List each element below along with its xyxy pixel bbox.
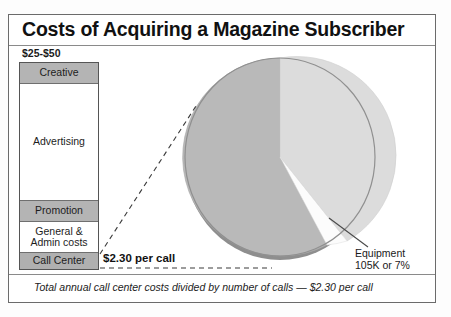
title-divider [9,45,435,46]
equipment-label: Equipment 105K or 7% [355,247,410,271]
figure-root: Costs of Acquiring a Magazine Subscriber… [0,0,451,317]
equipment-label-line1: Equipment [355,247,410,259]
bar-segment-advertising-label: Advertising [33,136,85,148]
stacked-bar: Creative Advertising Promotion General &… [19,62,99,270]
bar-segment-promotion-label: Promotion [35,205,83,217]
bar-segment-call-center-label: Call Center [33,255,86,267]
bar-segment-general-admin: General & Admin costs [20,222,98,252]
footnote-text: Total annual call center costs divided b… [34,281,373,293]
per-call-callout: $2.30 per call [103,252,175,264]
bar-segment-creative: Creative [20,63,98,84]
bar-segment-promotion: Promotion [20,200,98,222]
bar-segment-advertising: Advertising [20,84,98,200]
footnote-divider [9,274,435,275]
equipment-label-line2: 105K or 7% [355,259,410,271]
page-title: Costs of Acquiring a Magazine Subscriber [22,18,404,41]
bar-segment-call-center: Call Center [20,252,98,269]
bar-segment-general-admin-label-line2: Admin costs [30,237,87,249]
bar-top-label: $25-$50 [22,47,61,59]
bar-segment-creative-label: Creative [39,67,78,79]
